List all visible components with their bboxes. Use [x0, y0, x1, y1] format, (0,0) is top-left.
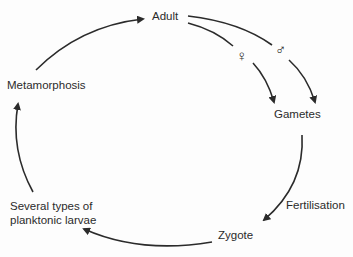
arrow-female-to-gametes [253, 63, 274, 102]
node-larvae-line1: Several types of [10, 199, 92, 213]
node-metamorphosis: Metamorphosis [7, 78, 86, 92]
node-zygote: Zygote [218, 228, 253, 242]
life-cycle-diagram: Adult Metamorphosis Gametes Fertilisatio… [0, 0, 353, 257]
line-adult-to-female [188, 23, 233, 46]
arrow-metamorphosis-to-adult [36, 19, 143, 70]
male-symbol-icon: ♂ [275, 42, 286, 57]
line-adult-to-male [188, 16, 272, 45]
arrow-male-to-gametes [289, 60, 315, 102]
arrow-zygote-to-larvae [84, 229, 212, 246]
node-gametes: Gametes [274, 107, 321, 121]
arrow-larvae-to-metamorphosis [16, 104, 33, 192]
female-symbol-icon: ♀ [236, 48, 247, 63]
node-larvae-line2: planktonic larvae [10, 213, 96, 227]
node-adult: Adult [152, 9, 178, 23]
edge-label-fertilisation: Fertilisation [286, 198, 345, 212]
